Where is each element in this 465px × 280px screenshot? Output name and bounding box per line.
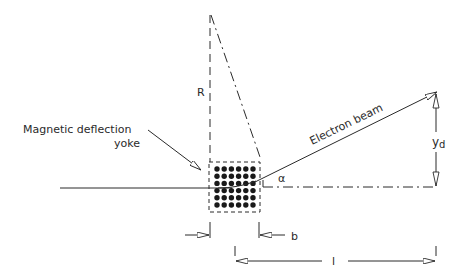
coil-dot	[250, 166, 255, 171]
coil-dot	[214, 202, 219, 207]
yoke-label-line1: Magnetic deflection	[23, 123, 131, 136]
coil-dot	[229, 188, 234, 193]
coil-dot	[222, 195, 227, 200]
coil-dot	[236, 202, 241, 207]
coil-dot	[236, 166, 241, 171]
coil-dot	[229, 195, 234, 200]
coil-dot	[243, 188, 248, 193]
coil-dot	[222, 174, 227, 179]
angle-label: α	[278, 172, 285, 185]
coil-dot	[250, 174, 255, 179]
coil-dot	[214, 181, 219, 186]
coil-dot	[222, 188, 227, 193]
coil-dot	[229, 166, 234, 171]
yoke-label-line2: yoke	[114, 137, 140, 150]
deflection-diagram: R Electron beam α yd Magnetic deflection…	[0, 0, 465, 280]
coil-dot	[214, 166, 219, 171]
coil-dot	[243, 174, 248, 179]
coil-dot	[222, 202, 227, 207]
coil-dot	[214, 188, 219, 193]
coil-dot	[214, 195, 219, 200]
coil-dot	[236, 195, 241, 200]
yd-arrow-top	[433, 94, 439, 108]
radius-slant-line	[211, 15, 261, 160]
coil-dot	[243, 195, 248, 200]
coil-dot	[222, 166, 227, 171]
beam-label: Electron beam	[308, 101, 385, 148]
coil-dot	[250, 202, 255, 207]
coil-dot	[243, 166, 248, 171]
radius-label: R	[197, 86, 205, 99]
coil-dot	[250, 195, 255, 200]
coil-dot	[236, 174, 241, 179]
coil-dot	[229, 174, 234, 179]
yoke-leader	[148, 130, 201, 170]
coil-dot	[250, 188, 255, 193]
coil-dot	[229, 202, 234, 207]
coil-dot	[222, 181, 227, 186]
coil-dot	[229, 181, 234, 186]
coil-dot	[243, 202, 248, 207]
coil-dot	[214, 174, 219, 179]
b-label: b	[291, 230, 298, 243]
l-label: l	[332, 255, 335, 268]
yd-arrow-bottom	[433, 172, 439, 186]
electron-beam	[255, 92, 437, 182]
coil-dot	[236, 188, 241, 193]
